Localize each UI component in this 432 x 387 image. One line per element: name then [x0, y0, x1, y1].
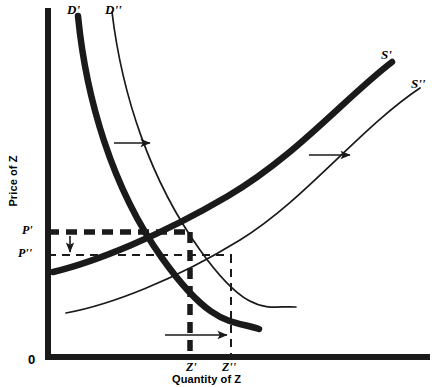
supply-curve-s1: [53, 62, 392, 272]
demand-curve-d1: [78, 16, 259, 329]
quantity-tick-label-z2: Z'': [222, 360, 236, 375]
supply-demand-figure: Price of Z Quantity of Z 0 D' D'' S' S''…: [0, 0, 432, 387]
quantity-tick-label-z1: Z': [186, 360, 197, 375]
curve-label-d1: D': [67, 2, 80, 18]
y-axis-title: Price of Z: [7, 146, 19, 216]
price-tick-label-p1: P': [22, 223, 33, 238]
price-tick-label-p2: P'': [18, 246, 32, 261]
chart-canvas: [0, 0, 432, 387]
demand-curve-d2: [112, 12, 296, 307]
origin-label: 0: [28, 352, 35, 367]
curve-label-d2: D'': [105, 2, 122, 18]
curve-label-s1: S': [381, 47, 392, 63]
curve-label-s2: S'': [411, 76, 425, 92]
supply-curve-s2: [66, 88, 420, 313]
